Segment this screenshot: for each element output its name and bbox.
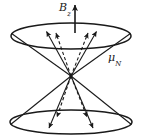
magnetic-moment-label: μN — [108, 52, 121, 66]
lower-moment-vector-left — [49, 76, 71, 128]
magnetic-moment-subscript: N — [115, 60, 121, 68]
magnetic-field-label: Bz — [59, 2, 71, 16]
lower-cone-edge-left — [11, 76, 71, 125]
precession-cone-figure: Bz μN — [0, 0, 141, 138]
cone-apex-point — [69, 74, 72, 77]
magnetic-field-subscript: z — [67, 10, 71, 18]
magnetic-field-symbol: B — [59, 1, 67, 14]
upper-cone-edge-left — [12, 34, 71, 77]
bottom-cone-rim-ellipse — [10, 110, 132, 134]
cone-diagram-canvas — [0, 0, 141, 138]
lower-cone-edge-right — [71, 76, 131, 125]
upper-moment-vector-right — [71, 32, 97, 77]
top-cone-rim-ellipse — [11, 23, 131, 49]
upper-moment-vector-left — [47, 32, 72, 77]
upper-precession-dashed-left — [56, 33, 71, 76]
